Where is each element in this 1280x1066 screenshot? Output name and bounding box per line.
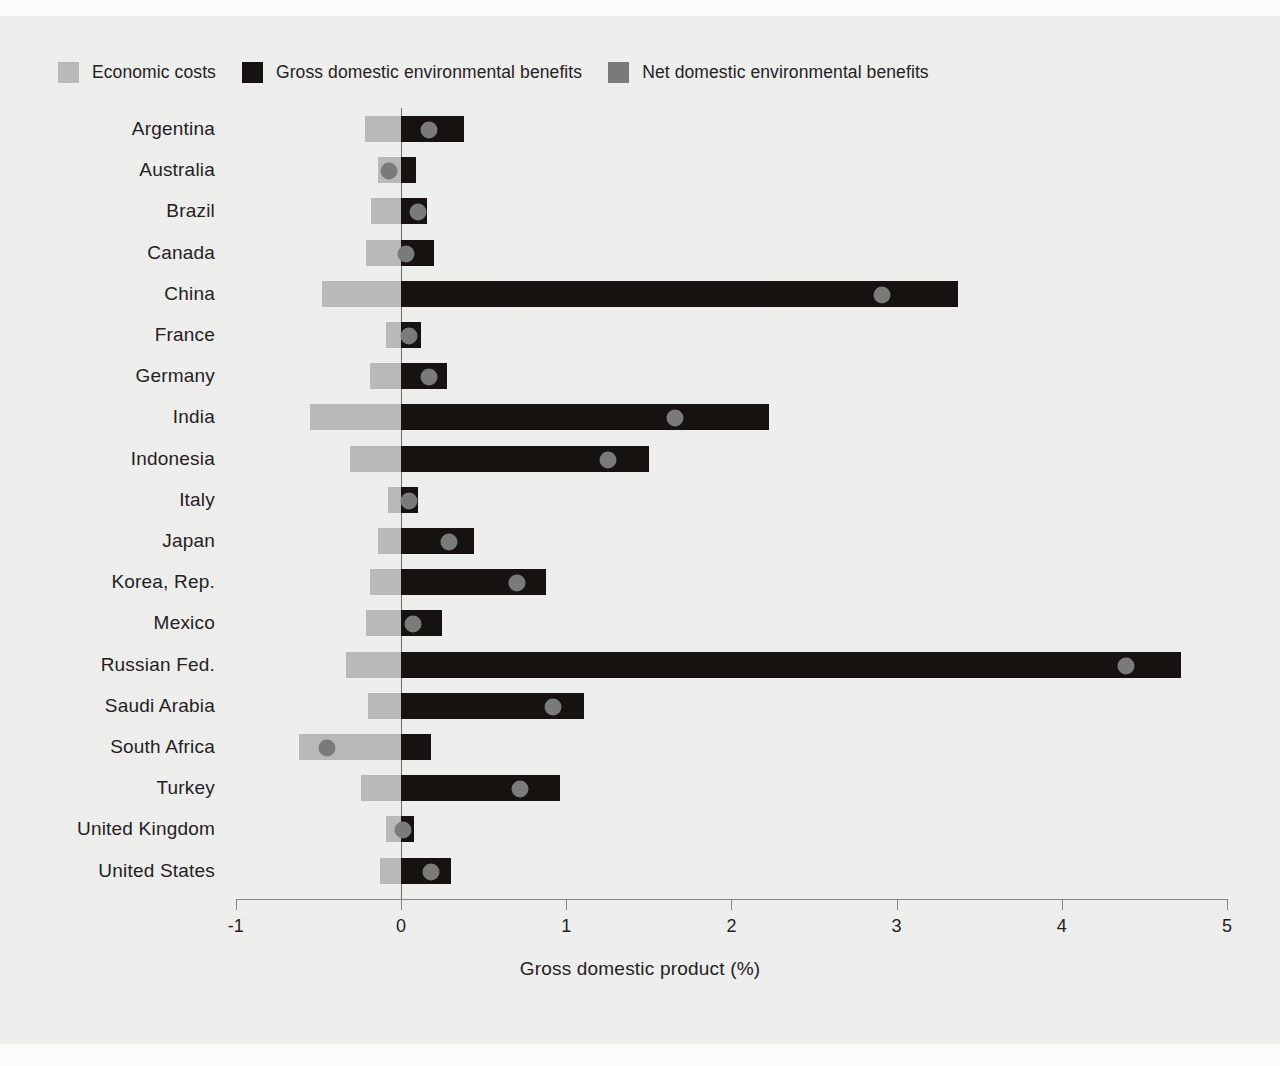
dot-net-benefits-turkey[interactable] <box>511 781 528 798</box>
category-label-united-kingdom: United Kingdom <box>0 818 215 840</box>
bar-gross-benefits-japan[interactable] <box>401 528 474 554</box>
category-label-russian-fed: Russian Fed. <box>0 654 215 676</box>
x-tick-0 <box>236 899 237 910</box>
bar-economic-costs-argentina[interactable] <box>365 116 401 142</box>
category-label-japan: Japan <box>0 530 215 552</box>
dot-net-benefits-germany[interactable] <box>421 369 438 386</box>
dot-net-benefits-canada[interactable] <box>397 245 414 262</box>
bar-gross-benefits-turkey[interactable] <box>401 775 560 801</box>
bar-economic-costs-canada[interactable] <box>366 240 401 266</box>
dot-net-benefits-brazil[interactable] <box>409 204 426 221</box>
category-label-korea-rep: Korea, Rep. <box>0 571 215 593</box>
category-label-australia: Australia <box>0 159 215 181</box>
dot-net-benefits-argentina[interactable] <box>421 122 438 139</box>
dot-net-benefits-indonesia[interactable] <box>599 451 616 468</box>
category-label-brazil: Brazil <box>0 200 215 222</box>
bar-economic-costs-korea-rep[interactable] <box>370 569 401 595</box>
bar-economic-costs-japan[interactable] <box>378 528 401 554</box>
bar-economic-costs-mexico[interactable] <box>366 610 401 636</box>
dot-net-benefits-japan[interactable] <box>440 534 457 551</box>
x-tick-3 <box>731 899 732 910</box>
x-tick-2 <box>566 899 567 910</box>
dot-net-benefits-italy[interactable] <box>401 492 418 509</box>
bar-economic-costs-turkey[interactable] <box>361 775 401 801</box>
x-tick-label-3: 2 <box>726 916 736 937</box>
chart-page: Economic costsGross domestic environment… <box>0 0 1280 1066</box>
dot-net-benefits-russian-fed[interactable] <box>1118 657 1135 674</box>
category-label-france: France <box>0 324 215 346</box>
dot-net-benefits-france[interactable] <box>401 328 418 345</box>
category-label-turkey: Turkey <box>0 777 215 799</box>
x-axis-title: Gross domestic product (%) <box>0 958 1280 980</box>
bar-economic-costs-china[interactable] <box>322 281 401 307</box>
dot-net-benefits-saudi-arabia[interactable] <box>544 698 561 715</box>
category-label-indonesia: Indonesia <box>0 448 215 470</box>
category-label-south-africa: South Africa <box>0 736 215 758</box>
bar-gross-benefits-australia[interactable] <box>401 157 416 183</box>
dot-net-benefits-united-states[interactable] <box>422 863 439 880</box>
category-axis-labels: ArgentinaAustraliaBrazilCanadaChinaFranc… <box>0 0 215 1066</box>
category-label-mexico: Mexico <box>0 612 215 634</box>
bar-economic-costs-brazil[interactable] <box>371 198 401 224</box>
bar-gross-benefits-south-africa[interactable] <box>401 734 431 760</box>
plot-area: ArgentinaAustraliaBrazilCanadaChinaFranc… <box>0 0 1280 1066</box>
bar-economic-costs-italy[interactable] <box>388 487 401 513</box>
bar-economic-costs-india[interactable] <box>310 404 401 430</box>
category-label-saudi-arabia: Saudi Arabia <box>0 695 215 717</box>
x-tick-5 <box>1062 899 1063 910</box>
bar-economic-costs-united-states[interactable] <box>380 858 401 884</box>
x-tick-label-2: 1 <box>561 916 571 937</box>
bar-economic-costs-saudi-arabia[interactable] <box>368 693 401 719</box>
category-label-italy: Italy <box>0 489 215 511</box>
dot-net-benefits-united-kingdom[interactable] <box>394 822 411 839</box>
dot-net-benefits-mexico[interactable] <box>404 616 421 633</box>
bar-economic-costs-south-africa[interactable] <box>299 734 401 760</box>
dot-net-benefits-china[interactable] <box>873 286 890 303</box>
x-tick-label-5: 4 <box>1057 916 1067 937</box>
bar-gross-benefits-india[interactable] <box>401 404 769 430</box>
category-label-india: India <box>0 406 215 428</box>
dot-net-benefits-south-africa[interactable] <box>318 740 335 757</box>
category-label-argentina: Argentina <box>0 118 215 140</box>
dot-net-benefits-australia[interactable] <box>381 163 398 180</box>
bar-gross-benefits-russian-fed[interactable] <box>401 652 1181 678</box>
x-tick-4 <box>897 899 898 910</box>
x-tick-label-1: 0 <box>396 916 406 937</box>
category-label-germany: Germany <box>0 365 215 387</box>
x-tick-6 <box>1227 899 1228 910</box>
category-label-united-states: United States <box>0 860 215 882</box>
category-label-china: China <box>0 283 215 305</box>
category-label-canada: Canada <box>0 242 215 264</box>
x-tick-label-6: 5 <box>1222 916 1232 937</box>
dot-net-benefits-india[interactable] <box>667 410 684 427</box>
x-tick-label-0: -1 <box>228 916 244 937</box>
dot-net-benefits-korea-rep[interactable] <box>508 575 525 592</box>
bar-economic-costs-germany[interactable] <box>370 363 401 389</box>
x-tick-1 <box>401 899 402 910</box>
x-tick-label-4: 3 <box>892 916 902 937</box>
bar-economic-costs-russian-fed[interactable] <box>346 652 401 678</box>
bar-economic-costs-indonesia[interactable] <box>350 446 401 472</box>
bar-economic-costs-france[interactable] <box>386 322 401 348</box>
